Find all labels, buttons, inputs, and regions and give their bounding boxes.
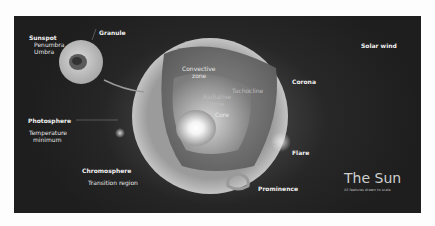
label-penumbra: Penumbra (34, 41, 65, 48)
diagram-title: The Sun (344, 171, 401, 186)
label-convective-zone-2: zone (192, 72, 206, 79)
label-photosphere: Photosphere (28, 117, 71, 124)
diagram-subtitle: All features drawn to scale (344, 188, 391, 192)
label-radiative-zone-2: zone (210, 100, 224, 107)
label-chromosphere: Chromosphere (82, 167, 131, 174)
label-radiative-zone-1: Radiative (203, 93, 231, 100)
label-umbra: Umbra (34, 48, 54, 55)
label-solar-wind: Solar wind (361, 42, 397, 49)
label-temperature-minimum-2: minimum (33, 136, 61, 143)
label-flare: Flare (292, 149, 309, 156)
label-corona: Corona (292, 78, 316, 85)
label-prominence: Prominence (258, 185, 298, 192)
label-granule: Granule (99, 29, 126, 36)
label-temperature-minimum-1: Temperature (29, 129, 67, 136)
core (176, 110, 216, 146)
label-convective-zone-1: Convective (182, 65, 215, 72)
label-core: Core (215, 111, 229, 118)
label-transition-region: Transition region (88, 179, 138, 186)
label-tachocline: Tachocline (232, 87, 263, 94)
flare-glow (271, 132, 291, 152)
sun-diagram-panel: Sunspot Penumbra Umbra Granule Convectiv… (14, 16, 421, 213)
label-sunspot: Sunspot (29, 34, 57, 41)
